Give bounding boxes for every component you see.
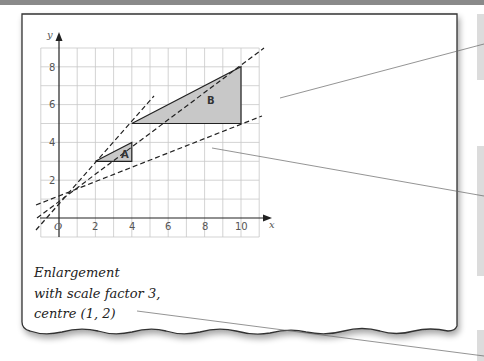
x-tick-2: 2 [92,221,98,232]
x-tick-4: 4 [129,221,135,232]
note-line-1: Enlargement [34,263,160,284]
y-axis-label: y [46,29,53,40]
note-text: Enlargement with scale factor 3, centre … [34,263,160,325]
origin-label: O [54,221,62,232]
x-axis-label: x [269,219,275,230]
shape-B-label: B [207,95,215,106]
y-tick-8: 8 [49,62,55,73]
y-tick-6: 6 [49,99,55,110]
x-tick-8: 8 [202,221,208,232]
y-tick-2: 2 [49,175,55,186]
x-tick-6: 6 [165,221,171,232]
shape-A-label: A [121,149,129,160]
note-line-3: centre (1, 2) [34,304,160,325]
y-tick-4: 4 [49,137,55,148]
note-line-2: with scale factor 3, [34,284,160,305]
x-tick-10: 10 [235,221,248,232]
